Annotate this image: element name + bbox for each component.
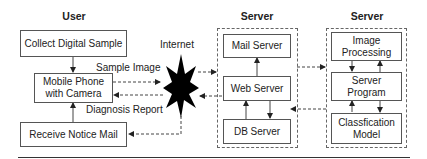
sample-image-label: Sample Image [96,62,160,73]
mail-server-box: Mail Server [223,34,291,58]
server-program-box: Server Program [331,72,402,101]
model-line1: Classfication [338,117,395,129]
diagnosis-report-label: Diagnosis Report [86,104,163,115]
phone-line2: with Camera [45,88,101,100]
collect-digital-sample-box: Collect Digital Sample [20,30,127,57]
program-line1: Server [352,75,381,87]
image-processing-box: Image Processing [331,32,402,61]
db-server-box: DB Server [223,119,291,144]
internet-label: Internet [160,39,194,50]
receive-label: Receive Notice Mail [29,129,117,141]
collect-label: Collect Digital Sample [25,38,123,50]
phone-line1: Mobile Phone [43,76,104,88]
mail-server-label: Mail Server [232,40,283,52]
web-server-box: Web Server [223,76,291,101]
web-server-label: Web Server [231,83,284,95]
image-line2: Processing [342,47,391,59]
classification-model-box: Classfication Model [331,113,402,144]
receive-notice-mail-box: Receive Notice Mail [20,122,127,147]
model-line2: Model [353,129,380,141]
program-line2: Program [347,87,385,99]
mobile-phone-box: Mobile Phone with Camera [34,73,113,103]
starburst-icon [163,54,199,118]
db-server-label: DB Server [234,126,280,138]
bottom-rule [18,157,410,158]
image-line1: Image [353,35,381,47]
